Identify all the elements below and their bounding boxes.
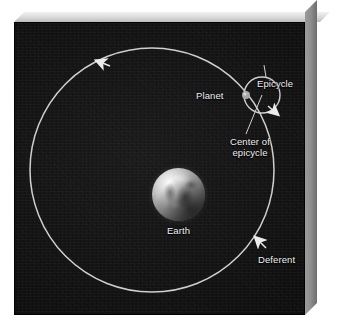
orbit-diagram — [14, 22, 305, 315]
box-top-bevel — [14, 12, 330, 22]
label-epicycle: Epicycle — [257, 78, 293, 89]
deferent-arrow-upper-left — [100, 62, 110, 66]
earth-globe — [152, 168, 205, 221]
label-center-of-epicycle-line2: epicycle — [212, 147, 288, 158]
epicycle-leader — [264, 65, 266, 77]
diagram-panel: Epicycle Planet Center of epicycle Earth… — [14, 22, 305, 315]
label-deferent: Deferent — [258, 254, 295, 265]
figure-container: Epicycle Planet Center of epicycle Earth… — [0, 0, 337, 335]
deferent-arrow-lower-right — [258, 240, 266, 248]
label-center-of-epicycle-line1: Center of — [212, 136, 288, 147]
deferent-orbit — [30, 48, 274, 292]
label-planet: Planet — [196, 90, 224, 101]
box-right-side — [305, 0, 317, 315]
earth-terminator-shading — [152, 168, 205, 221]
label-earth: Earth — [152, 225, 205, 236]
center-of-epicycle-leader — [246, 95, 262, 134]
planet-dot-highlight — [243, 92, 246, 95]
